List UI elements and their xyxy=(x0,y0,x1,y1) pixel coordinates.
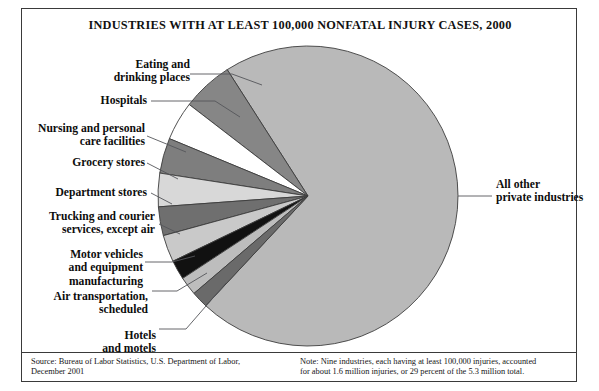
footer-divider xyxy=(22,352,576,353)
pie-label-air-transportation-scheduled: Air transportation, scheduled xyxy=(20,290,148,317)
pie-label-department-stores: Department stores xyxy=(25,186,147,199)
chart-note: Note: Nine industries, each having at le… xyxy=(300,357,576,378)
figure-page: INDUSTRIES WITH AT LEAST 100,000 NONFATA… xyxy=(0,0,599,391)
pie-label-eating-and-drinking-places: Eating and drinking places xyxy=(32,58,190,85)
pie-label-nursing-and-personal-care-facilities: Nursing and personal care facilities xyxy=(14,122,145,149)
pie-slice-group xyxy=(158,46,458,346)
pie-label-grocery-stores: Grocery stores xyxy=(32,156,145,169)
source-note: Source: Bureau of Labor Statistics, U.S.… xyxy=(31,357,291,378)
pie-label-all-other-private-industries: All other private industries xyxy=(496,178,599,205)
pie-label-trucking-and-courier-services: Trucking and courier services, except ai… xyxy=(14,210,155,237)
pie-label-motor-vehicles-and-equipment-manufacturing: Motor vehicles and equipment manufacturi… xyxy=(28,248,143,288)
pie-label-hospitals: Hospitals xyxy=(32,94,147,107)
